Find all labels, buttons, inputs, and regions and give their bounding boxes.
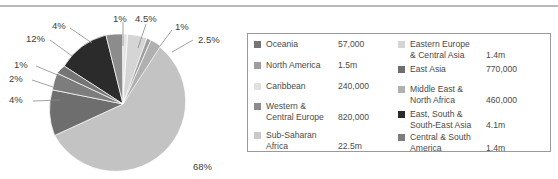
legend-item-eastern-europe-central-asia[interactable]: Eastern Europe & Central Asia: [398, 39, 470, 61]
legend-item-caribbean[interactable]: Caribbean: [254, 81, 306, 92]
legend-label-sub-saharan-africa: Sub-Saharan Africa: [266, 130, 317, 152]
legend-value-middle-east-north-africa: 460,000: [486, 95, 517, 106]
legend-value-east-asia: 770,000: [486, 64, 517, 75]
legend-value-east-south-south-east-asia: 4.1m: [486, 120, 505, 131]
legend-label-east-asia: East Asia: [410, 64, 446, 75]
legend-swatch-eastern-europe-central-asia: [398, 41, 405, 48]
legend-label-oceania: Oceania: [266, 39, 298, 50]
legend-label-east-south-south-east-asia: East, South & South-East Asia: [410, 109, 471, 131]
legend-label-caribbean: Caribbean: [266, 81, 306, 92]
legend-value-central-south-america: 1.4m: [486, 143, 505, 154]
pie-label-12: 12%: [26, 33, 45, 44]
legend-value-north-america: 1.5m: [338, 60, 357, 71]
legend-item-oceania[interactable]: Oceania: [254, 39, 298, 50]
legend-item-middle-east-north-africa[interactable]: Middle East & North Africa: [398, 84, 463, 106]
pie-label-1-left: 1%: [14, 59, 28, 70]
legend-item-western-central-europe[interactable]: Western & Central Europe: [254, 101, 324, 123]
legend-item-east-asia[interactable]: East Asia: [398, 64, 446, 75]
legend-value-caribbean: 240,000: [338, 81, 369, 92]
pie-label-2-5: 2.5%: [198, 34, 220, 45]
legend-label-middle-east-north-africa: Middle East & North Africa: [410, 84, 463, 106]
legend-item-sub-saharan-africa[interactable]: Sub-Saharan Africa: [254, 130, 317, 152]
legend-swatch-north-america: [254, 62, 261, 69]
pie-label-4-lower-left: 4%: [9, 94, 23, 105]
pie-label-1-right: 1%: [175, 21, 189, 32]
legend-swatch-sub-saharan-africa: [254, 132, 261, 139]
pie-label-4-5: 4.5%: [135, 13, 157, 24]
pie-label-68: 68%: [193, 161, 212, 172]
legend-box: Oceania 57,000 North America 1.5m Caribb…: [247, 33, 551, 152]
legend-label-north-america: North America: [266, 60, 320, 71]
legend-swatch-east-asia: [398, 66, 405, 73]
legend-item-east-south-south-east-asia[interactable]: East, South & South-East Asia: [398, 109, 471, 131]
legend-value-western-central-europe: 820,000: [338, 112, 369, 123]
pie-label-2: 2%: [9, 73, 23, 84]
legend-column-left: Oceania 57,000 North America 1.5m Caribb…: [254, 39, 398, 147]
chart-page: 4% 12% 1% 2% 4% 1% 4.5% 1% 2.5% 68% Ocea…: [0, 0, 558, 179]
legend-swatch-middle-east-north-africa: [398, 86, 405, 93]
legend-value-oceania: 57,000: [338, 39, 364, 50]
top-divider: [0, 5, 558, 7]
legend-item-north-america[interactable]: North America: [254, 60, 320, 71]
legend-swatch-western-central-europe: [254, 103, 261, 110]
legend-label-western-central-europe: Western & Central Europe: [266, 101, 324, 123]
pie-label-4-upper-left: 4%: [52, 20, 66, 31]
legend-label-eastern-europe-central-asia: Eastern Europe & Central Asia: [410, 39, 470, 61]
legend-swatch-oceania: [254, 41, 261, 48]
legend-value-eastern-europe-central-asia: 1.4m: [486, 50, 505, 61]
legend-swatch-east-south-south-east-asia: [398, 111, 405, 118]
legend-swatch-central-south-america: [398, 134, 405, 141]
legend-column-right: Eastern Europe & Central Asia 1.4m East …: [398, 39, 546, 147]
pie-chart: 4% 12% 1% 2% 4% 1% 4.5% 1% 2.5% 68%: [0, 8, 245, 179]
legend-columns: Oceania 57,000 North America 1.5m Caribb…: [254, 39, 546, 147]
legend-swatch-caribbean: [254, 83, 261, 90]
legend-value-sub-saharan-africa: 22.5m: [338, 141, 362, 152]
pie-label-1-top: 1%: [113, 13, 127, 24]
legend-label-central-south-america: Central & South America: [410, 132, 471, 154]
legend-item-central-south-america[interactable]: Central & South America: [398, 132, 471, 154]
